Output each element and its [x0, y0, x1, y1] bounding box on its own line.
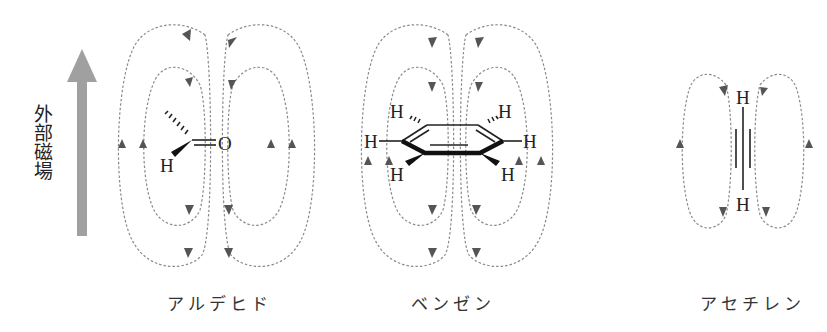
magnetic-anisotropy-diagram: O H [0, 0, 827, 332]
hydrogen-atom-label: H [160, 155, 174, 176]
acetylene-structure: H H [736, 87, 750, 215]
external-field-arrow [67, 49, 97, 236]
aldehyde-structure: O H [160, 111, 232, 176]
benzene-label: ベンゼン [411, 290, 495, 315]
hydrogen-atom-label: H [736, 87, 750, 108]
external-field-label: 外部磁場 [29, 104, 53, 180]
aldehyde-label: アルデヒド [167, 290, 272, 315]
hydrogen-atom-label: H [390, 101, 404, 122]
hydrogen-atom-label: H [390, 164, 404, 185]
aldehyde-field-lines [118, 25, 315, 267]
hydrogen-atom-label: H [364, 131, 378, 152]
hydrogen-atom-label: H [498, 101, 512, 122]
acetylene-label: アセチレン [700, 290, 805, 315]
hydrogen-atom-label: H [523, 131, 537, 152]
hydrogen-atom-label: H [501, 164, 515, 185]
hydrogen-atom-label: H [736, 194, 750, 215]
oxygen-atom-label: O [218, 133, 232, 154]
benzene-structure: H H H H H H [364, 101, 537, 185]
